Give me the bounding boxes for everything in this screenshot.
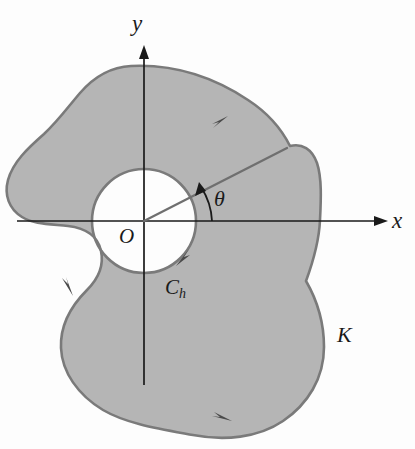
diagram-svg xyxy=(0,0,415,449)
hole-curve-label-base: C xyxy=(165,275,179,299)
region-K-label: K xyxy=(337,324,352,346)
y-axis-label: y xyxy=(132,12,142,35)
hole-curve-label: Ch xyxy=(165,277,186,301)
region-K xyxy=(7,66,324,438)
outer-left-arrow-icon xyxy=(62,277,73,296)
x-axis-label: x xyxy=(392,209,402,232)
theta-angle-label: θ xyxy=(214,188,225,210)
x-axis-arrowhead-icon xyxy=(374,216,388,226)
hole-curve-label-subscript: h xyxy=(179,286,186,301)
y-axis-arrowhead-icon xyxy=(139,45,149,59)
origin-label: O xyxy=(119,226,134,247)
figure-canvas: y x O θ K Ch xyxy=(0,0,415,449)
